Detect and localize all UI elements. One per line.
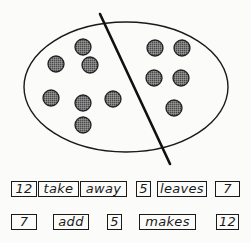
right-dot-group bbox=[146, 40, 190, 116]
word-box-12: 12 bbox=[216, 214, 239, 230]
word-box-7: 7 bbox=[215, 181, 240, 197]
word-box-leaves: leaves bbox=[157, 181, 207, 197]
left-dot bbox=[82, 57, 98, 73]
left-dot bbox=[75, 117, 91, 133]
divider-line bbox=[100, 14, 170, 164]
word-box-12: 12 bbox=[11, 181, 37, 197]
left-dot bbox=[75, 95, 91, 111]
left-dot-group bbox=[43, 39, 121, 133]
left-dot bbox=[43, 90, 59, 106]
word-box-7: 7 bbox=[11, 214, 37, 230]
word-box-5: 5 bbox=[136, 181, 151, 197]
word-box-makes: makes bbox=[139, 214, 196, 230]
word-box-take: take bbox=[38, 181, 79, 197]
word-box-5: 5 bbox=[107, 214, 122, 230]
right-dot bbox=[166, 100, 182, 116]
dot-diagram bbox=[0, 0, 251, 243]
set-ellipse bbox=[24, 22, 228, 152]
word-box-add: add bbox=[53, 214, 89, 230]
left-dot bbox=[48, 56, 64, 72]
right-dot bbox=[147, 40, 163, 56]
word-box-away: away bbox=[80, 181, 127, 197]
right-dot bbox=[173, 70, 189, 86]
left-dot bbox=[75, 39, 91, 55]
left-dot bbox=[105, 91, 121, 107]
right-dot bbox=[174, 40, 190, 56]
right-dot bbox=[146, 70, 162, 86]
